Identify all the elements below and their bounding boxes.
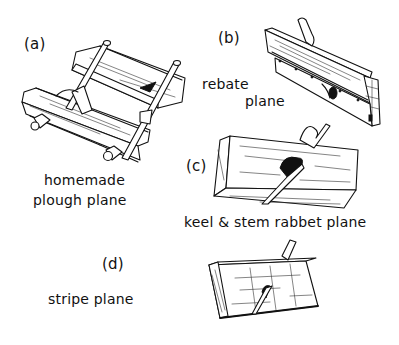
keel-stem-rabbet-plane-drawing (214, 124, 358, 208)
rebate-plane-drawing (265, 18, 380, 126)
item-d-caption: stripe plane (48, 291, 134, 307)
item-c-caption: keel & stem rabbet plane (184, 214, 366, 230)
stripe-plane-drawing (209, 240, 318, 318)
plane-illustration-figure: (a) homemade plough plane (b) rebate pla… (0, 0, 399, 345)
item-a-tag: (a) (24, 36, 46, 52)
item-c-tag: (c) (186, 158, 207, 174)
homemade-plough-plane-drawing (22, 41, 185, 163)
item-b-caption-line-1: rebate (202, 76, 249, 92)
item-b-caption-line-2: plane (245, 93, 285, 109)
item-a-caption-line-1: homemade (44, 172, 125, 188)
item-a-caption-line-2: plough plane (33, 192, 127, 208)
item-b-tag: (b) (218, 30, 240, 46)
item-d-tag: (d) (102, 256, 124, 272)
